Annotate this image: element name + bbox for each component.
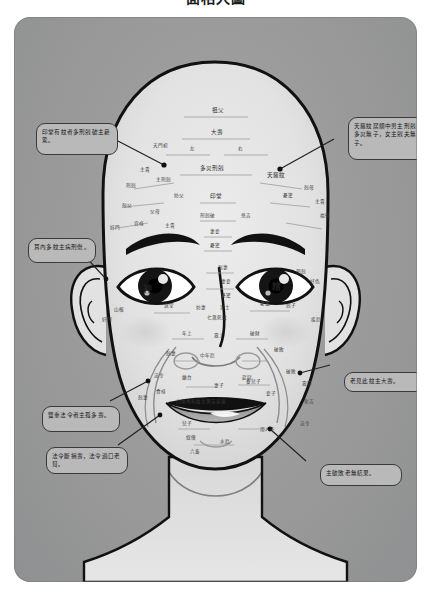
region-label-mouth-3: 妾子	[266, 391, 276, 396]
left-cheek-shade	[119, 315, 171, 349]
region-label-eyes-15: 疾厄	[311, 317, 321, 322]
region-label-forehead-11: 主貴	[315, 199, 325, 204]
region-label-eyes-3: 妻妾	[221, 279, 231, 284]
region-label-nose_cheek-3: 中年厄	[200, 353, 215, 358]
region-label-forehead-10: 奸門	[110, 225, 120, 230]
region-label-eyes-9: 男士	[220, 305, 230, 310]
region-label-forehead-21: 主貴	[165, 223, 175, 228]
neck-and-shoulders	[84, 457, 347, 582]
region-label-forehead-15: 印堂	[210, 193, 222, 199]
region-label-mouth-0: 妻子	[214, 383, 224, 388]
region-label-forehead-13: 憂驚	[283, 193, 293, 198]
region-label-forehead-19: 官祿	[134, 221, 144, 226]
region-label-mouth-9: 法令	[300, 421, 310, 426]
region-label-forehead-20: 主刑剋	[156, 177, 171, 182]
region-label-eyes-6: 好色	[310, 279, 320, 284]
physiognomy-diagram-page: 面相大圖	[0, 0, 431, 598]
diagram-panel: 祖父大壽左右多災刑剋天門初天羅紋主貴刑剋剋父奸門主貴剋母憂驚妨父印堂刑剋破兇吉父…	[14, 17, 417, 582]
face-illustration	[14, 17, 417, 582]
region-label-forehead-24: 福德	[320, 213, 330, 218]
left-ear	[71, 266, 106, 355]
callout-ruin-no-result: 主破敗老無結果。	[320, 464, 402, 486]
region-label-forehead-12: 剋母	[304, 185, 314, 190]
region-label-forehead-1: 大壽	[211, 129, 223, 135]
region-label-mouth-5: 口角內有紋主勞苦奔波	[176, 399, 226, 404]
region-label-eyes-11: 剋子	[286, 303, 296, 308]
region-label-eyes-14: 奸門	[102, 317, 112, 322]
page-title: 面相大圖	[0, 0, 431, 5]
region-label-forehead-7: 主貴	[140, 167, 150, 172]
region-label-forehead-8: 刑剋	[126, 183, 136, 188]
region-label-mouth-11: 奴僕	[186, 435, 196, 440]
region-label-forehead-2: 左	[190, 146, 195, 151]
region-label-nose_cheek-5: 破敗	[274, 347, 284, 352]
callout-yintang: 印堂有紋者多刑剋破主憂驚。	[36, 123, 118, 155]
callout-double-faling: 雙重法令者主孤多壽。	[42, 406, 120, 432]
region-label-eyes-10: 憂驚	[260, 301, 270, 306]
region-label-forehead-9: 剋父	[122, 203, 132, 208]
region-label-nose_cheek-0: 年上	[182, 331, 192, 336]
region-label-eyes-4: 憂驚	[221, 293, 231, 298]
right-cheek-shade	[260, 315, 312, 349]
region-label-eyes-12: 七煞死紋	[207, 315, 227, 320]
callout-ear-lines: 耳內多紋主病刑傷。	[28, 238, 96, 263]
region-label-forehead-16: 刑剋破	[200, 213, 215, 218]
callout-tianluo: 天羅紋居額中男主刑剋多災無子，女主剋夫無子。	[348, 117, 417, 160]
region-label-mouth-6: 化吉	[304, 399, 314, 404]
region-label-eyes-8: 妨妻	[196, 305, 206, 310]
region-label-nose_cheek-8: 蘭台	[182, 375, 192, 380]
region-label-eyes-2: 剋妻	[218, 265, 228, 270]
region-label-forehead-3: 右	[238, 146, 243, 151]
region-label-mouth-13: 六畜	[190, 449, 200, 454]
callout-old-longevity: 老見此紋主大壽。	[344, 372, 417, 392]
region-label-mouth-8: 兒子	[182, 421, 192, 426]
region-label-forehead-18: 父母	[150, 209, 160, 214]
region-label-eyes-5: 刑剋	[296, 269, 306, 274]
region-label-nose_cheek-2: 破財	[250, 331, 260, 336]
region-label-forehead-4: 多災刑剋	[200, 165, 224, 171]
region-label-forehead-22: 妻妾	[210, 229, 220, 234]
region-label-forehead-17: 兇吉	[241, 213, 251, 218]
region-label-mouth-10: 用人不	[260, 427, 275, 432]
region-label-forehead-5: 天門初	[153, 143, 168, 148]
region-label-eyes-7: 淚堂	[164, 303, 174, 308]
region-label-mouth-1: 養兒子	[246, 379, 261, 384]
region-label-nose_cheek-1: 壽上	[214, 333, 224, 338]
region-label-mouth-2: 食祿	[156, 389, 166, 394]
right-ear	[325, 266, 360, 355]
region-label-mouth-4: 壽帶	[302, 381, 312, 386]
region-label-nose_cheek-7: 破敗	[286, 369, 296, 374]
region-label-forehead-6: 天羅紋	[267, 172, 285, 178]
region-label-mouth-7: 剋妻	[138, 395, 148, 400]
region-label-forehead-14: 妨父	[174, 193, 184, 198]
region-label-eyes-13: 山根	[114, 307, 124, 312]
region-label-eyes-0: 神	[143, 284, 152, 294]
region-label-nose_cheek-6: 法令	[154, 373, 164, 378]
region-label-forehead-23: 憂驚	[210, 243, 220, 248]
region-label-mouth-12: 水厄	[220, 439, 230, 444]
callout-faling-broken: 法令斷損壽，法令過口老貧。	[46, 447, 128, 474]
region-label-eyes-1: 精	[272, 282, 281, 292]
region-label-nose_cheek-4: 剋妻	[166, 351, 176, 356]
region-label-forehead-0: 祖父	[212, 107, 224, 113]
